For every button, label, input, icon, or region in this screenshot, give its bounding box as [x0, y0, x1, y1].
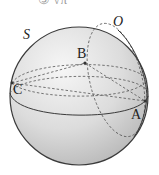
label-s: S — [23, 28, 30, 42]
point-b — [83, 61, 86, 64]
label-c: C — [13, 83, 22, 97]
label-b: B — [77, 47, 86, 61]
sphere-diagram: ③ √π S O B C A — [0, 0, 159, 175]
cut-off-header-text: ③ √π — [38, 0, 67, 6]
label-o: O — [113, 15, 123, 29]
label-a: A — [131, 108, 141, 122]
point-a — [144, 100, 147, 103]
